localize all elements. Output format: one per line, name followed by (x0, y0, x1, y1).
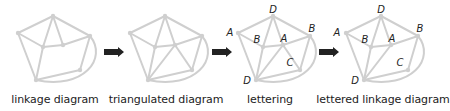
vertex-label-inner-left: B (362, 34, 369, 45)
caption-lettered-linkage-diagram: lettered linkage diagram (316, 93, 449, 106)
vertex-label-left: A (227, 27, 234, 38)
vertex-label-lower-right: C (287, 57, 294, 68)
vertex-label-right: B (309, 23, 316, 34)
caption-linkage-diagram: linkage diagram (11, 93, 99, 106)
vertex-label-lower-right: C (397, 57, 404, 68)
vertex-label-inner-left: B (254, 34, 261, 45)
panel-linkage-diagram (16, 14, 96, 82)
vertex-label-top: D (269, 4, 277, 15)
vertex-label-inner-right: A (281, 33, 288, 44)
vertex-label-left: A (334, 27, 341, 38)
caption-triangulated-diagram: triangulated diagram (109, 93, 224, 106)
panel-lettering (236, 14, 316, 82)
vertex-label-inner-right: A (389, 33, 396, 44)
panel-lettered-linkage-diagram (344, 14, 424, 82)
vertex-label-bottom: D (243, 75, 251, 86)
vertex-label-right: B (417, 23, 424, 34)
arrow-icon (212, 47, 232, 57)
caption-lettering: lettering (247, 93, 293, 106)
vertex-label-top: D (377, 4, 385, 15)
arrow-icon (319, 47, 339, 57)
arrow-icon (104, 47, 124, 57)
panel-triangulated-diagram (128, 14, 208, 82)
vertex-label-bottom: D (351, 75, 359, 86)
